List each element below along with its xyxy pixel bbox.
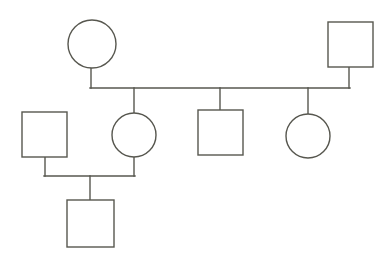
union-1-connectors <box>90 67 350 114</box>
person-node-male-II-1[interactable] <box>22 112 67 157</box>
pedigree-svg-canvas <box>0 0 390 264</box>
person-node-male-I-2[interactable] <box>328 22 373 67</box>
generation-1-nodes <box>68 20 373 68</box>
generation-2-nodes <box>22 110 330 158</box>
union-2-connectors <box>44 157 135 200</box>
person-node-female-II-4[interactable] <box>286 114 330 158</box>
person-node-female-II-2[interactable] <box>112 113 156 157</box>
person-node-male-III-1[interactable] <box>67 200 114 247</box>
generation-3-nodes <box>67 200 114 247</box>
person-node-female-I-1[interactable] <box>68 20 116 68</box>
person-node-male-II-3[interactable] <box>198 110 243 155</box>
pedigree-diagram <box>0 0 390 264</box>
